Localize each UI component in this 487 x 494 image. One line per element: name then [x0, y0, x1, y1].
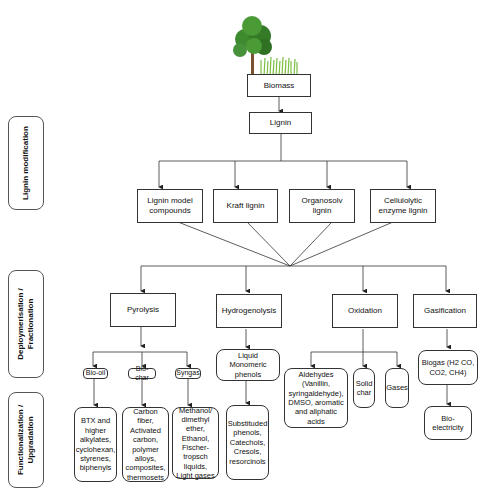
- stage-deploymerisation: Deploymerisation / Fractionation: [8, 270, 44, 378]
- upgrade-bio-oil: BTX and higher alkylates, cyclohexan, st…: [74, 407, 117, 482]
- upgrade-label: BTX and higher alkylates, cyclohexan, st…: [76, 416, 116, 472]
- lignin-type-label: Cellulolytic enzyme lignin: [373, 196, 433, 216]
- lignin-label: Lignin: [270, 118, 291, 128]
- process-label: Oxidation: [348, 306, 382, 316]
- upgrade-label: Methanol/ dimethyl ether, Ethanol, Fisch…: [175, 406, 216, 481]
- lignin-type-label: Lignin model compounds: [140, 196, 200, 216]
- upgrade-syngas: Methanol/ dimethyl ether, Ethanol, Fisch…: [172, 407, 219, 479]
- gasification-product-biogas: Biogas (H2 CO, CO2, CH4): [418, 350, 478, 385]
- lignin-type-label: Kraft lignin: [227, 201, 265, 211]
- oxidation-product-aldehydes: Aldehydes (Vanillin, syringaldehyde), DM…: [284, 368, 348, 428]
- pyrolysis-product-bio-oil: Bio-oil: [83, 368, 108, 379]
- product-label: Solid char: [355, 379, 373, 398]
- product-label: Biogas (H2 CO, CO2, CH4): [421, 358, 475, 377]
- pyrolysis-product-syngas: Syngas: [175, 368, 201, 379]
- upgrade-bio-char: Carbon fiber, Activated carbon, polymer …: [122, 407, 169, 482]
- stage-lignin-modification: Lignin modification: [8, 116, 44, 210]
- upgrade-label: Bio-electricity: [427, 414, 469, 433]
- upgrade-label: Substituded phenols, Catechols, Cresols,…: [228, 419, 268, 466]
- process-oxidation: Oxidation: [332, 294, 398, 328]
- oxidation-product-solid-char: Solid char: [353, 368, 375, 408]
- stage-label: Functionalization / Upgradation: [16, 405, 36, 475]
- pyrolysis-product-bio-char: Bio-char: [128, 368, 156, 379]
- product-label: Liquid Monomeric phenols: [219, 351, 277, 379]
- process-gasification: Gasification: [413, 294, 477, 328]
- product-label: Syngas: [176, 369, 199, 378]
- oxidation-product-gases: Gases: [385, 368, 409, 408]
- lignin-type-cellulolytic-enzyme: Cellulolytic enzyme lignin: [370, 189, 436, 223]
- process-label: Gasification: [424, 306, 466, 316]
- tree-and-grass-icon: [228, 14, 308, 76]
- process-pyrolysis: Pyrolysis: [110, 293, 176, 327]
- process-label: Hydrogenolysis: [222, 306, 277, 316]
- stage-functionalization: Functionalization / Upgradation: [8, 392, 44, 488]
- lignin-type-model-compounds: Lignin model compounds: [137, 189, 203, 223]
- lignin-type-kraft: Kraft lignin: [213, 189, 278, 223]
- gasification-upgrade-bio-electricity: Bio-electricity: [424, 406, 472, 440]
- lignin-node: Lignin: [249, 112, 312, 134]
- upgrade-label: Carbon fiber, Activated carbon, polymer …: [125, 407, 166, 482]
- stage-label: Deploymerisation / Fractionation: [16, 288, 36, 360]
- product-label: Bio-oil: [86, 369, 105, 378]
- hydrogenolysis-upgrade: Substituded phenols, Catechols, Cresols,…: [226, 405, 269, 480]
- product-label: Aldehydes (Vanillin, syringaldehyde), DM…: [287, 370, 345, 426]
- stage-label: Lignin modification: [21, 126, 31, 200]
- product-label: Bio-char: [129, 365, 155, 383]
- lignin-type-organosolv: Organosolv lignin: [289, 189, 355, 223]
- process-hydrogenolysis: Hydrogenolysis: [216, 294, 282, 328]
- biomass-label: Biomass: [264, 81, 295, 91]
- process-label: Pyrolysis: [127, 305, 159, 315]
- lignin-type-label: Organosolv lignin: [292, 196, 352, 216]
- product-label: Gases: [386, 383, 408, 392]
- biomass-node: Biomass: [247, 74, 311, 97]
- hydrogenolysis-product: Liquid Monomeric phenols: [216, 349, 280, 381]
